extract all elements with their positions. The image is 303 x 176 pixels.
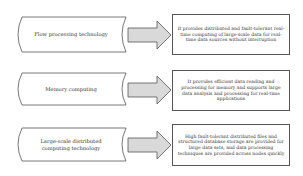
description-box: It provides efficient data reading and p… — [172, 70, 290, 111]
technology-shape: Flow processing technology — [14, 16, 128, 53]
right-arrow-icon — [127, 20, 173, 50]
right-arrow-icon — [127, 75, 173, 105]
technology-label: Large-scale distributed computing techno… — [32, 127, 110, 162]
technology-label: Memory computing — [20, 72, 122, 106]
description-box: It provides distributed and fault-tolera… — [172, 14, 290, 55]
right-arrow-icon — [127, 130, 173, 160]
technology-shape: Memory computing — [14, 72, 128, 106]
technology-shape: Large-scale distributed computing techno… — [14, 127, 128, 162]
description-box: High fault-tolerant distributed files an… — [172, 124, 290, 166]
technology-label: Flow processing technology — [20, 16, 122, 53]
